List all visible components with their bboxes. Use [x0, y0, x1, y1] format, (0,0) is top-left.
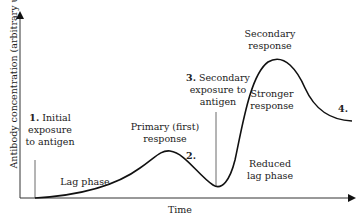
annotation-number-1: 1. [29, 112, 39, 123]
annotation-secondary-response: Secondary response [238, 28, 302, 52]
x-axis-label: Time [160, 204, 200, 215]
annotation-primary-response: Primary (first) response [125, 121, 205, 145]
y-axis-label: Antibody concentration (arbitrary units) [8, 19, 19, 169]
annotation-reduced-lag-phase: Reduced lag phase [240, 158, 300, 182]
annotation-number-3: 3. [186, 72, 196, 83]
diagram-canvas [0, 0, 360, 219]
annotation-lag-phase: Lag phase [55, 176, 115, 188]
antibody-response-diagram: Antibody concentration (arbitrary units)… [0, 0, 360, 219]
annotation-number-4: 4. [335, 103, 351, 115]
annotation-number-2: 2. [183, 150, 199, 162]
annotation-stronger-response: Stronger response [240, 88, 304, 112]
annotation-initial-exposure: 1. Initial exposure to antigen [20, 112, 80, 148]
